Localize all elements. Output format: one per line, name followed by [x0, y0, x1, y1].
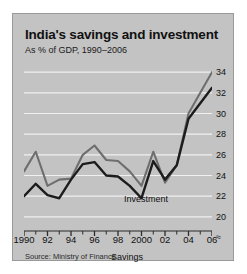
x-axis-tick-label: 04 [183, 234, 194, 245]
x-axis-tick-label: 94 [66, 234, 77, 245]
x-axis-labels: 1990929496982000020406 [21, 234, 221, 248]
x-axis-tick-label: 2000 [131, 234, 152, 245]
y-axis-tick-label: 20 [216, 212, 226, 222]
y-axis-tick-label: 30 [216, 109, 226, 119]
x-axis-tick-label: 02 [160, 234, 171, 245]
line-chart-svg [24, 67, 212, 222]
chart-subtitle: As % of GDP, 1990–2006 [25, 45, 127, 55]
x-axis [24, 222, 212, 231]
x-axis-tick-label: 92 [42, 234, 53, 245]
y-axis-tick-label: 32 [216, 88, 226, 98]
y-axis-tick-label: 22 [216, 191, 226, 201]
y-axis-tick-label: 28 [216, 129, 226, 139]
plot-area: Investment Savings [24, 67, 212, 222]
y-axis-tick-label: 34 [216, 67, 226, 77]
x-axis-tick-label: 96 [89, 234, 100, 245]
y-axis-tick-label: 26 [216, 150, 226, 160]
x-axis-tick-label: 98 [113, 234, 124, 245]
chart-panel: India's savings and investment As % of G… [12, 13, 234, 261]
y-axis-labels: 2022242628303234 [216, 67, 240, 222]
savings-series-line [24, 88, 212, 199]
y-axis-tick-label: 24 [216, 171, 226, 181]
investment-series-line [24, 72, 212, 186]
x-axis-tick-label: 1990 [13, 234, 34, 245]
page-title: India's savings and investment [25, 27, 218, 42]
x-axis-tick-label: 06 [207, 234, 218, 245]
investment-series-label: Investment [124, 194, 168, 204]
source-note: Source: Ministry of Finance [25, 252, 116, 261]
